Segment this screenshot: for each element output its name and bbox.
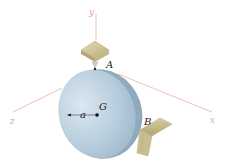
point-a-label: A [105,59,113,70]
x-axis-label: x [210,115,215,125]
y-axis: y [88,7,96,40]
point-b-label: B [143,116,151,127]
radius-label: a [80,109,86,120]
support-bracket-a [81,41,109,70]
point-g-label: G [99,101,107,112]
diagram-canvas: y x z A B a G [0,0,228,166]
center-of-mass-dot [95,113,99,117]
support-bracket-b [137,118,172,156]
disk-support-diagram: y x z A B a G [0,0,228,166]
y-axis-label: y [88,7,95,17]
z-axis: z [9,88,62,126]
z-axis-label: z [9,116,15,126]
